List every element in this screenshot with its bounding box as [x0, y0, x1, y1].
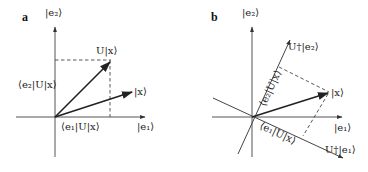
panel-a: a |e₂⟩ U|x⟩ |x⟩ |e₁⟩ ⟨e₂|U|x⟩ ⟨e₁|U|x⟩ [16, 7, 154, 157]
label-x: |x⟩ [331, 87, 344, 99]
label-x: |x⟩ [134, 86, 147, 98]
label-proj-e2: ⟨e₂|U|x⟩ [18, 79, 57, 91]
label-Udag-e1: U†|e₁⟩ [325, 144, 356, 156]
label-Ux: U|x⟩ [96, 45, 117, 57]
label-Udag-e2: U†|e₂⟩ [288, 41, 319, 53]
label-e2: |e₂⟩ [45, 7, 62, 19]
diagram-canvas: a |e₂⟩ U|x⟩ |x⟩ |e₁⟩ ⟨e₂|U|x⟩ ⟨e₁|U|x⟩ b [0, 0, 368, 172]
label-e1: |e₁⟩ [137, 121, 154, 133]
label-e2: |e₂⟩ [242, 7, 259, 19]
panel-b: b |e₂⟩ U†|e₂⟩ |x⟩ |e₁⟩ U†|e₁⟩ ⟨e₂|U|x⟩ ⟨… [211, 7, 356, 158]
panel-a-label: a [22, 10, 28, 24]
label-e1: |e₁⟩ [334, 122, 351, 134]
label-proj-e1: ⟨e₁|U|x⟩ [258, 120, 298, 147]
label-proj-e1: ⟨e₁|U|x⟩ [61, 121, 100, 133]
panel-b-label: b [211, 10, 218, 24]
label-proj-e2: ⟨e₂|U|x⟩ [257, 68, 284, 108]
dashed-projection-Udag-e2 [279, 67, 329, 92]
